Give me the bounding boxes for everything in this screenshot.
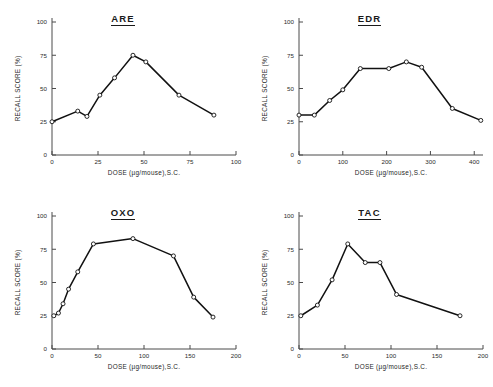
data-point: [394, 292, 398, 296]
x-tick-label: 0: [297, 158, 301, 165]
data-point: [131, 236, 135, 240]
x-tick-label: 0: [50, 158, 54, 165]
x-tick-label: 50: [95, 352, 102, 359]
data-point: [330, 277, 334, 281]
data-point: [91, 241, 95, 245]
data-point: [340, 88, 344, 92]
data-line: [300, 243, 459, 315]
data-point: [85, 114, 89, 118]
x-tick-label: 200: [477, 352, 488, 359]
data-point: [67, 287, 71, 291]
data-point: [386, 67, 390, 71]
y-tick-label: 50: [287, 85, 294, 92]
data-point: [315, 303, 319, 307]
y-tick-label: 100: [37, 212, 48, 219]
data-point: [298, 313, 302, 317]
data-point: [76, 269, 80, 273]
y-tick-label: 75: [40, 52, 47, 59]
chart-tac: 0255075100050100150200DOSE (µg/mouse),S.…: [247, 194, 493, 387]
x-tick-label: 200: [231, 352, 242, 359]
data-point: [345, 241, 349, 245]
data-point: [358, 67, 362, 71]
y-tick-label: 50: [40, 278, 47, 285]
data-point: [478, 118, 482, 122]
data-point: [327, 98, 331, 102]
chart-are: 02550751000255075100DOSE (µg/mouse),S.C.…: [0, 0, 246, 193]
data-line: [54, 238, 213, 316]
y-axis-title: RECALL SCORE (%): [261, 56, 269, 122]
x-tick-label: 150: [431, 352, 442, 359]
y-tick-label: 75: [287, 245, 294, 252]
data-point: [297, 113, 301, 117]
y-tick-label: 100: [37, 18, 48, 25]
data-point: [131, 53, 135, 57]
y-axis-title: RECALL SCORE (%): [14, 56, 22, 122]
x-tick-label: 0: [50, 352, 54, 359]
data-point: [419, 65, 423, 69]
x-tick-label: 100: [231, 158, 242, 165]
data-point: [458, 313, 462, 317]
data-point: [450, 106, 454, 110]
x-tick-label: 100: [337, 158, 348, 165]
x-axis-title: DOSE (µg/mouse),S.C.: [108, 363, 181, 371]
y-tick-label: 100: [283, 212, 294, 219]
y-tick-label: 75: [287, 52, 294, 59]
y-tick-label: 0: [290, 345, 294, 352]
data-point: [98, 93, 102, 97]
data-point: [192, 295, 196, 299]
data-point: [76, 109, 80, 113]
y-tick-label: 25: [40, 118, 47, 125]
y-axis-title: RECALL SCORE (%): [14, 249, 22, 315]
y-axis-title: RECALL SCORE (%): [261, 249, 269, 315]
data-point: [312, 113, 316, 117]
x-tick-label: 100: [139, 352, 150, 359]
panel-edr: EDR 02550751000100200300400DOSE (µg/mous…: [247, 0, 493, 193]
x-tick-label: 100: [385, 352, 396, 359]
data-point: [363, 260, 367, 264]
data-point: [404, 60, 408, 64]
data-point: [211, 315, 215, 319]
x-tick-label: 300: [425, 158, 436, 165]
panel-tac: TAC 0255075100050100150200DOSE (µg/mouse…: [247, 194, 493, 387]
y-tick-label: 0: [44, 151, 48, 158]
x-tick-label: 50: [141, 158, 148, 165]
chart-edr: 02550751000100200300400DOSE (µg/mouse),S…: [247, 0, 493, 193]
y-tick-label: 75: [40, 245, 47, 252]
x-tick-label: 200: [381, 158, 392, 165]
panel-are: ARE 02550751000255075100DOSE (µg/mouse),…: [0, 0, 246, 193]
data-point: [52, 313, 56, 317]
x-tick-label: 25: [95, 158, 102, 165]
y-tick-label: 50: [287, 278, 294, 285]
data-point: [61, 301, 65, 305]
y-tick-label: 50: [40, 85, 47, 92]
data-point: [50, 120, 54, 124]
y-tick-label: 25: [287, 118, 294, 125]
x-tick-label: 75: [187, 158, 194, 165]
x-tick-label: 400: [469, 158, 480, 165]
figure-four-panel-dose-response: ARE 02550751000255075100DOSE (µg/mouse),…: [0, 0, 493, 387]
data-point: [113, 76, 117, 80]
y-tick-label: 0: [44, 345, 48, 352]
data-point: [377, 260, 381, 264]
data-point: [144, 60, 148, 64]
panel-oxo: OXO 0255075100050100150200DOSE (µg/mouse…: [0, 194, 246, 387]
x-tick-label: 50: [341, 352, 348, 359]
y-tick-label: 25: [287, 312, 294, 319]
x-axis-title: DOSE (µg/mouse),S.C.: [354, 169, 427, 177]
y-tick-label: 100: [283, 18, 294, 25]
x-axis-title: DOSE (µg/mouse),S.C.: [354, 363, 427, 371]
x-tick-label: 0: [297, 352, 301, 359]
data-point: [56, 311, 60, 315]
data-point: [212, 113, 216, 117]
x-axis-title: DOSE (µg/mouse),S.C.: [108, 169, 181, 177]
data-point: [171, 253, 175, 257]
y-tick-label: 25: [40, 312, 47, 319]
y-tick-label: 0: [290, 151, 294, 158]
chart-oxo: 0255075100050100150200DOSE (µg/mouse),S.…: [0, 194, 246, 387]
x-tick-label: 150: [185, 352, 196, 359]
data-point: [177, 93, 181, 97]
